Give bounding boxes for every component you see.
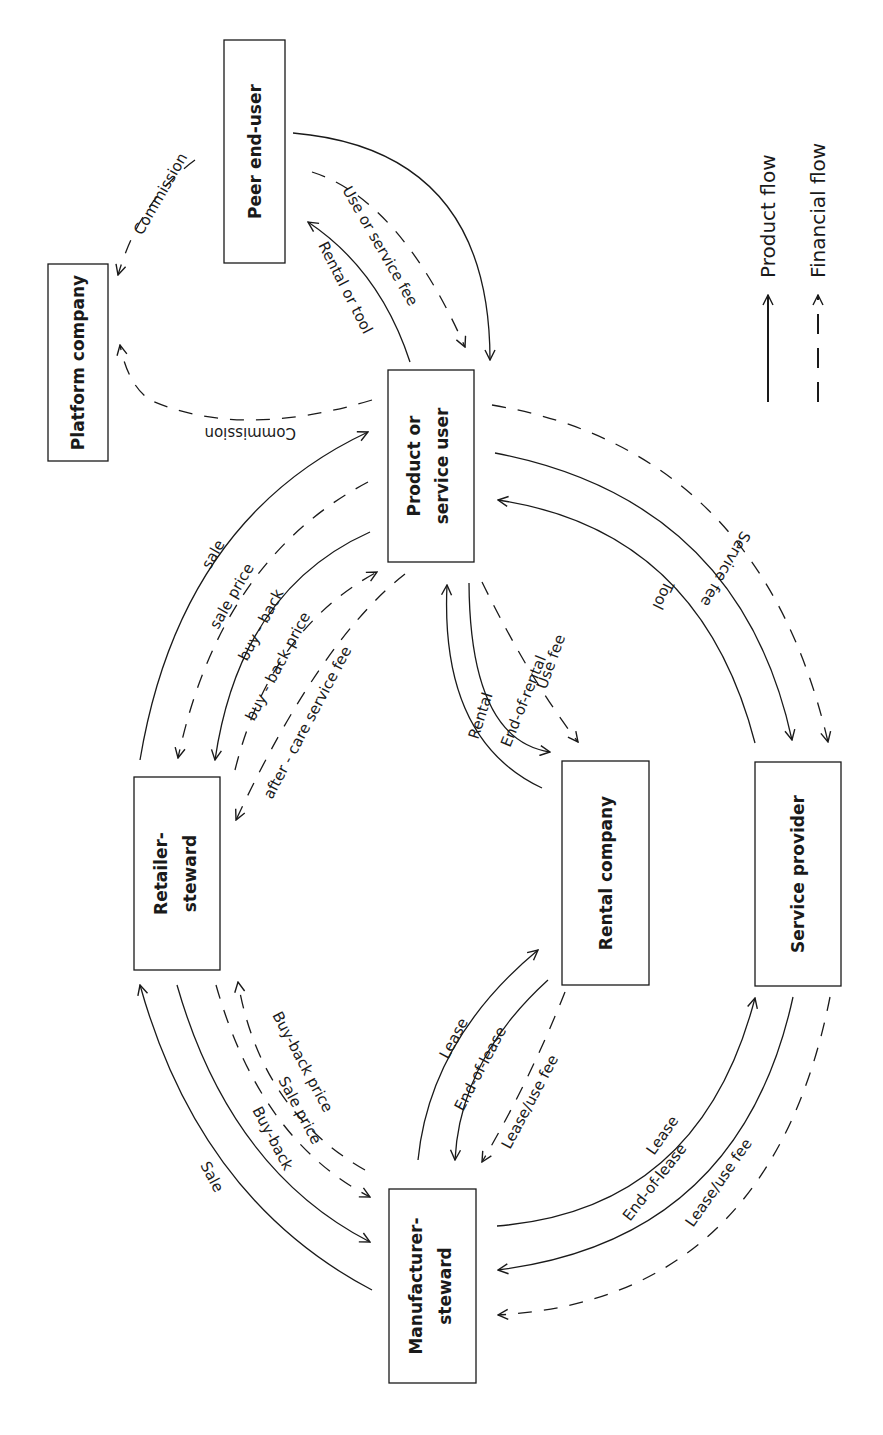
node-retailer-steward: Retailer- steward [134, 777, 220, 970]
node-label-line2: service user [432, 407, 452, 524]
node-label: Rental company [596, 796, 616, 950]
svg-text:Tool: Tool [649, 577, 678, 612]
node-label-line2: steward [435, 1247, 455, 1325]
legend-product-flow: Product flow [756, 155, 780, 403]
legend-financial-flow: Financial flow [806, 143, 830, 402]
edge-rc-lease-use-fee: Lease/use fee [482, 992, 565, 1162]
node-peer-end-user: Peer end-user [224, 40, 285, 263]
node-rental-company: Rental company [562, 761, 649, 985]
svg-text:Commission: Commission [204, 424, 296, 442]
svg-text:Financial flow: Financial flow [806, 143, 830, 278]
edge-rental-or-tool: Rental or tool [308, 222, 410, 362]
svg-text:Buy-back: Buy-back [248, 1103, 297, 1173]
svg-text:Lease/use fee: Lease/use fee [498, 1052, 563, 1152]
svg-text:sale: sale [198, 537, 229, 572]
edge-tool: Tool [498, 500, 755, 743]
node-label: Peer end-user [245, 83, 265, 218]
node-label-line1: Manufacturer- [406, 1217, 426, 1354]
edge-mfr-sale: Sale [140, 985, 372, 1290]
node-label-line1: Retailer- [151, 832, 171, 915]
edge-user-commission: Commission [120, 345, 372, 442]
node-service-provider: Service provider [755, 762, 841, 986]
node-label: Service provider [788, 794, 808, 952]
node-platform-company: Platform company [48, 264, 108, 461]
svg-text:Product flow: Product flow [756, 155, 780, 279]
svg-text:Lease: Lease [436, 1015, 472, 1062]
svg-text:Commission: Commission [130, 150, 191, 238]
svg-text:Rental: Rental [465, 690, 497, 741]
edge-peer-commission: Commission [118, 150, 195, 275]
node-label-line1: Product or [404, 415, 424, 517]
svg-text:Lease/use fee: Lease/use fee [682, 1135, 756, 1230]
svg-text:Service fee: Service fee [697, 528, 755, 610]
node-manufacturer-steward: Manufacturer- steward [389, 1189, 476, 1383]
svg-text:Sale: Sale [196, 1158, 227, 1195]
edge-sp-end-of-lease: End-of-lease [498, 997, 793, 1270]
legend: Product flow Financial flow [756, 143, 830, 402]
node-label-line2: steward [180, 835, 200, 913]
node-label: Platform company [68, 275, 88, 450]
node-product-or-service-user: Product or service user [388, 370, 474, 562]
edge-mfr-buy-back-price: Buy-back price [238, 982, 365, 1170]
circular-economy-flow-diagram: Peer end-user Platform company Product o… [0, 0, 883, 1435]
edge-service-fee-solid [495, 453, 792, 740]
edge-rc-end-of-lease: End-of-lease [451, 980, 548, 1160]
